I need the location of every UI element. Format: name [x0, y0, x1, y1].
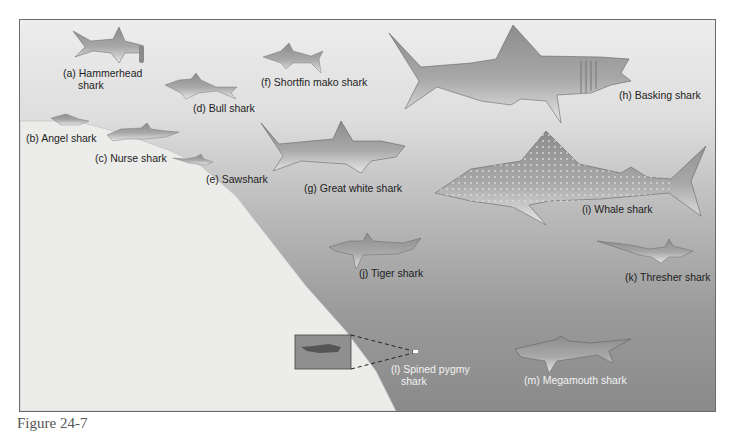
whale-shark-icon: [435, 131, 706, 225]
label-great-white-shark: (g) Great white shark: [304, 182, 402, 194]
label-megamouth-shark: (m) Megamouth shark: [524, 374, 627, 386]
nurse-shark-icon: [107, 123, 179, 141]
label-sawshark: (e) Sawshark: [206, 173, 268, 185]
figure-panel: (a) Hammerheadshark (b) Angel shark (c) …: [19, 19, 716, 412]
label-thresher-shark: (k) Thresher shark: [625, 271, 711, 283]
thresher-shark-icon: [597, 239, 693, 263]
great-white-shark-icon: [261, 121, 405, 173]
basking-shark-icon: [389, 25, 631, 123]
label-nurse-shark: (c) Nurse shark: [95, 152, 167, 164]
label-whale-shark: (i) Whale shark: [582, 203, 653, 215]
megamouth-shark-icon: [515, 336, 631, 373]
bull-shark-icon: [165, 73, 237, 99]
figure-caption: Figure 24-7: [17, 415, 87, 432]
shortfin-mako-shark-icon: [263, 43, 323, 73]
label-spined-pygmy-shark: (l) Spined pygmyshark: [391, 363, 470, 387]
label-hammerhead-shark: (a) Hammerheadshark: [63, 67, 142, 91]
label-shortfin-mako-shark: (f) Shortfin mako shark: [261, 76, 367, 88]
tiger-shark-icon: [329, 233, 421, 269]
label-bull-shark: (d) Bull shark: [193, 102, 255, 114]
label-tiger-shark: (j) Tiger shark: [359, 267, 423, 279]
label-basking-shark: (h) Basking shark: [619, 89, 701, 101]
hammerhead-shark-icon: [73, 27, 144, 63]
label-angel-shark: (b) Angel shark: [26, 132, 97, 144]
